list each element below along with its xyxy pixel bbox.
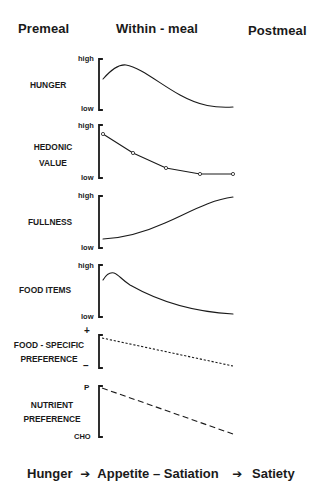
fullness-axis-bracket xyxy=(99,196,102,248)
hedonic-marker xyxy=(101,132,104,135)
hedonic-marker xyxy=(131,151,134,154)
food-specific-preference-line xyxy=(102,338,233,366)
footer-stage-hunger: Hunger xyxy=(27,466,73,481)
footer-stage-satiety: Satiety xyxy=(252,466,295,481)
food-specific-axis-bracket xyxy=(99,335,102,368)
footer-stage-appetite-satiation: Appetite – Satiation xyxy=(97,466,218,481)
food-items-curve xyxy=(103,273,233,314)
hedonic-marker xyxy=(198,172,201,175)
arrow-right-icon: ➔ xyxy=(80,467,90,481)
nutrient-preference-line xyxy=(102,388,233,434)
hunger-axis-bracket xyxy=(99,59,102,110)
footer-sequence: Hunger ➔ Appetite – Satiation ➔ Satiety xyxy=(27,466,295,481)
hunger-curve xyxy=(103,65,233,107)
hedonic-marker xyxy=(231,172,234,175)
nutrient-axis-bracket xyxy=(99,386,102,437)
hedonic-marker xyxy=(164,166,167,169)
fullness-curve xyxy=(103,197,233,239)
diagram-plots xyxy=(0,0,320,482)
food-items-axis-bracket xyxy=(99,265,102,317)
arrow-right-icon: ➔ xyxy=(232,467,242,481)
